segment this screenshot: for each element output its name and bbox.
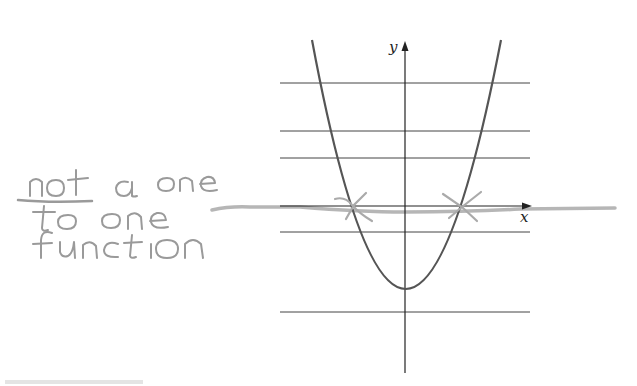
x-axis: x	[280, 203, 532, 227]
y-axis-label: y	[388, 38, 398, 56]
word-a	[116, 182, 137, 197]
faint-bottom-bar	[5, 380, 143, 384]
pencil-line	[212, 207, 615, 212]
parabola-curve	[312, 40, 501, 289]
word-to	[33, 206, 76, 231]
word-one-2	[102, 213, 168, 229]
graph-figure: x y	[0, 0, 637, 386]
word-function	[33, 232, 203, 258]
x-axis-label: x	[520, 208, 529, 226]
word-one-1	[158, 177, 217, 191]
word-not	[18, 170, 92, 202]
handwritten-note	[18, 170, 217, 258]
intersection-mark-left	[335, 193, 372, 221]
y-axis-arrow-icon	[402, 41, 409, 51]
